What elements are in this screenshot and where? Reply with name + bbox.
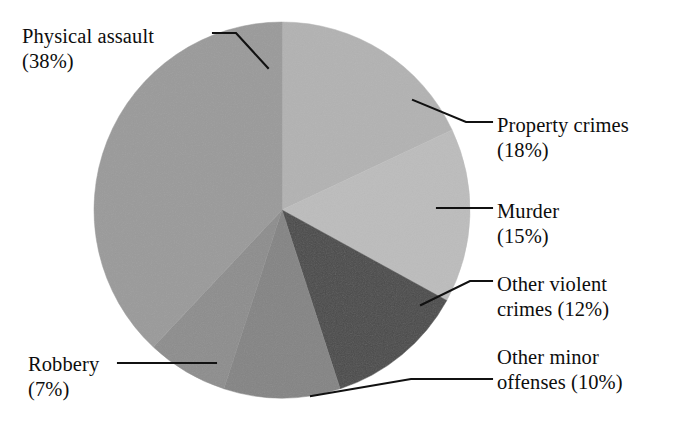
pie-label-other-minor-offenses: Other minor offenses (10%): [497, 345, 623, 395]
pie-label-murder: Murder (15%): [497, 199, 559, 249]
pie-slices-group: [94, 22, 470, 398]
pie-label-robbery: Robbery (7%): [28, 352, 99, 402]
pie-chart-figure: Physical assault (38%) Property crimes (…: [0, 0, 684, 432]
pie-label-property-crimes: Property crimes (18%): [497, 113, 629, 163]
pie-label-other-violent-crimes: Other violent crimes (12%): [497, 272, 609, 322]
pie-label-physical-assault: Physical assault (38%): [22, 24, 154, 74]
